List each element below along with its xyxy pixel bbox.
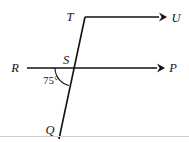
geometry-figure: T U R P S Q 75°: [0, 0, 189, 142]
label-angle-75: 75°: [43, 75, 58, 86]
geometry-canvas: T U R P S Q 75°: [0, 0, 189, 142]
label-s: S: [63, 53, 70, 67]
label-u: U: [171, 11, 181, 25]
ray-rp-arrowhead-icon: [157, 63, 165, 72]
ray-tu-arrowhead-icon: [159, 12, 167, 21]
label-p: P: [168, 61, 177, 75]
transversal-tq-line: [59, 17, 85, 139]
label-t: T: [67, 10, 75, 24]
label-q: Q: [45, 123, 54, 137]
label-r: R: [10, 61, 19, 75]
